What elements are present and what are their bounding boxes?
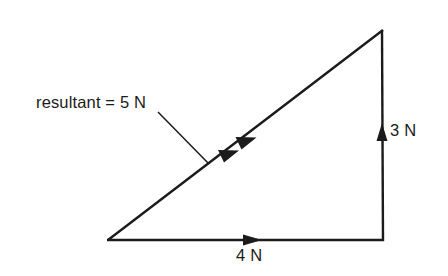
resultant-label: resultant = 5 N [36,94,146,111]
vector-diagram-figure: resultant = 5 N 3 N 4 N [0,0,448,276]
horizontal-component-label: 4 N [236,247,263,264]
vertical-component-label: 3 N [390,122,417,139]
vector-triangle-svg [0,0,448,276]
